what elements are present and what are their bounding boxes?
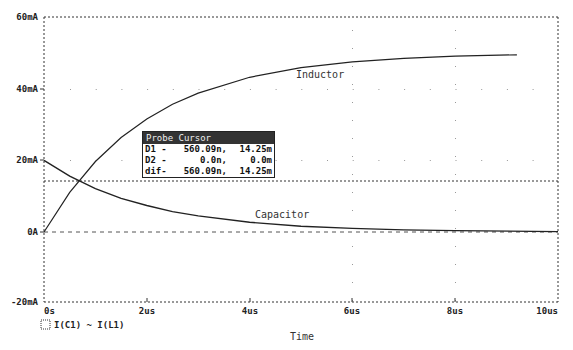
x-tick-2us: 2us — [139, 306, 155, 316]
y-tick-0A: 0A — [27, 227, 38, 237]
x-tick-4us: 4us — [242, 306, 258, 316]
y-tick-neg20mA: -20mA — [11, 297, 39, 307]
inductor-trace[interactable] — [44, 55, 517, 232]
y-tick-60mA: 60mA — [16, 12, 38, 22]
x-axis-label: Time — [290, 331, 314, 342]
x-tick-10us: 10us — [536, 306, 558, 316]
probe-plot-window: 60mA 40mA 20mA 0A -20mA 0s 2us 4us 6us 8… — [0, 0, 573, 350]
plot-frame — [44, 17, 558, 302]
axis-ticks — [40, 89, 455, 302]
legend-symbol-icon[interactable] — [41, 320, 50, 329]
x-tick-6us: 6us — [344, 306, 360, 316]
probe-cursor-title: Probe Cursor — [143, 132, 274, 144]
x-tick-0s: 0s — [44, 306, 55, 316]
plot-area[interactable]: 60mA 40mA 20mA 0A -20mA 0s 2us 4us 6us 8… — [0, 0, 573, 350]
inductor-label: Inductor — [296, 69, 344, 80]
probe-row-d1: D1 -560.09n,14.25m — [143, 144, 274, 155]
probe-row-dif: dif-560.09n,14.25m — [143, 166, 274, 177]
legend-text[interactable]: I(C1) ~ I(L1) — [54, 320, 124, 330]
x-tick-8us: 8us — [447, 306, 463, 316]
capacitor-label: Capacitor — [255, 209, 309, 220]
probe-row-d2: D2 -0.0n,0.0m — [143, 155, 274, 166]
capacitor-trace[interactable] — [44, 160, 558, 231]
y-tick-20mA: 20mA — [16, 155, 38, 165]
y-tick-40mA: 40mA — [16, 84, 38, 94]
probe-cursor-box[interactable]: Probe Cursor D1 -560.09n,14.25m D2 -0.0n… — [142, 131, 275, 178]
